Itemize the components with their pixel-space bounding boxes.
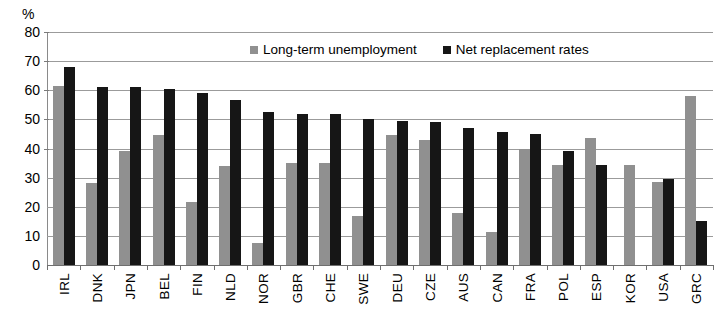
x-tick-label-kor: KOR [623, 273, 638, 303]
bar [64, 67, 75, 265]
y-tick-label-10: 10 [24, 228, 40, 244]
y-tick-label-80: 80 [24, 24, 40, 40]
x-tick-mark [680, 265, 681, 270]
bar [530, 134, 541, 265]
x-tick-mark [413, 265, 414, 270]
bar [386, 135, 397, 265]
bar [519, 149, 530, 266]
bar [596, 165, 607, 265]
bar [252, 243, 263, 265]
bar [663, 179, 674, 265]
bar [352, 216, 363, 266]
x-tick-mark [447, 265, 448, 270]
y-tick-mark-50 [44, 119, 49, 120]
x-tick-label-deu: DEU [390, 273, 405, 302]
bar [263, 112, 274, 265]
x-tick-label-gbr: GBR [290, 273, 305, 303]
x-tick-label-dnk: DNK [90, 273, 105, 302]
x-tick-mark [180, 265, 181, 270]
legend-label: Long-term unemployment [263, 42, 417, 57]
bar-group [613, 32, 646, 265]
x-tick-label-fra: FRA [523, 273, 538, 301]
y-tick-label-30: 30 [24, 170, 40, 186]
bar [164, 89, 175, 265]
bar [463, 128, 474, 265]
bar-group [480, 32, 513, 265]
bar [685, 96, 696, 265]
y-tick-label-0: 0 [32, 257, 40, 273]
x-tick-label-grc: GRC [689, 273, 704, 304]
x-tick-label-jpn: JPN [123, 273, 138, 299]
x-tick-label-esp: ESP [589, 273, 604, 301]
bar [119, 151, 130, 265]
y-axis-unit-label: % [22, 6, 35, 22]
bar [97, 87, 108, 265]
legend-swatch-icon [443, 46, 451, 54]
legend-item: Long-term unemployment [250, 42, 417, 57]
bar-group [413, 32, 446, 265]
bar-group [214, 32, 247, 265]
x-tick-label-bel: BEL [157, 273, 172, 299]
x-tick-mark [380, 265, 381, 270]
bar [430, 122, 441, 265]
legend-label: Net replacement rates [456, 42, 589, 57]
bar [552, 165, 563, 265]
y-tick-label-50: 50 [24, 111, 40, 127]
bar-group [180, 32, 213, 265]
bar-group [580, 32, 613, 265]
x-tick-mark [480, 265, 481, 270]
bar-group [380, 32, 413, 265]
bar-group [347, 32, 380, 265]
x-tick-mark [80, 265, 81, 270]
bar-group [513, 32, 546, 265]
x-tick-label-nor: NOR [256, 273, 271, 304]
bar [186, 202, 197, 265]
x-tick-mark [580, 265, 581, 270]
y-tick-label-70: 70 [24, 53, 40, 69]
y-tick-label-60: 60 [24, 82, 40, 98]
bar-group [147, 32, 180, 265]
bar [563, 151, 574, 265]
bar-group [47, 32, 80, 265]
y-tick-mark-60 [44, 90, 49, 91]
bar-group [247, 32, 280, 265]
bar [624, 165, 635, 265]
bar [230, 100, 241, 265]
legend-swatch-icon [250, 46, 258, 54]
bar [652, 182, 663, 265]
bar [297, 114, 308, 265]
bar [130, 87, 141, 265]
legend-item: Net replacement rates [443, 42, 589, 57]
x-tick-mark [646, 265, 647, 270]
x-tick-label-fin: FIN [190, 273, 205, 296]
x-tick-label-aus: AUS [456, 273, 471, 302]
bar [452, 213, 463, 265]
bar-group [80, 32, 113, 265]
bar [153, 135, 164, 265]
bar-chart: % 01020304050607080 IRLDNKJPNBELFINNLDNO… [0, 0, 723, 322]
bar [585, 138, 596, 265]
bar-group [646, 32, 679, 265]
bar [497, 132, 508, 265]
bar-group [447, 32, 480, 265]
x-tick-mark [347, 265, 348, 270]
x-axis: IRLDNKJPNBELFINNLDNORGBRCHESWEDEUCZEAUSC… [47, 265, 713, 322]
bar-group [680, 32, 713, 265]
x-tick-label-swe: SWE [356, 273, 371, 305]
bar [286, 163, 297, 265]
y-axis-tick-labels: 01020304050607080 [0, 32, 40, 265]
x-tick-label-usa: USA [656, 273, 671, 302]
bar [330, 114, 341, 265]
x-tick-mark [47, 265, 48, 270]
bar [197, 93, 208, 265]
bar [219, 166, 230, 265]
bar [486, 232, 497, 265]
x-tick-label-cze: CZE [423, 273, 438, 301]
bar [363, 119, 374, 265]
y-tick-mark-80 [44, 32, 49, 33]
x-tick-label-che: CHE [323, 273, 338, 302]
bar-group [280, 32, 313, 265]
x-tick-label-pol: POL [556, 273, 571, 301]
y-tick-mark-40 [44, 149, 49, 150]
bar-group [313, 32, 346, 265]
